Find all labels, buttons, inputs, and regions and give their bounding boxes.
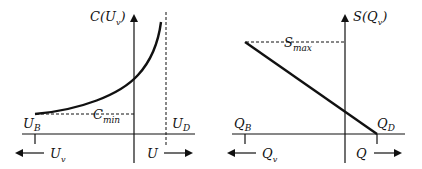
diagram-canvas: C(Uv) Cmin UB UD Uv U S(Qv) Smax QB [0,0,422,169]
qd-label: QD [377,116,395,133]
qv-direction-label: Qv [262,146,278,164]
right-panel-supply-line: S(Qv) Smax QB QD Qv Q [229,9,405,164]
smax-label: Smax [284,35,312,53]
uv-direction-label: Uv [50,146,66,164]
cmin-label: Cmin [93,107,120,125]
q-direction-label: Q [356,146,367,161]
left-y-axis-label: C(Uv) [90,9,126,27]
ub-label: UB [23,116,41,133]
qb-label: QB [234,116,252,133]
supply-line [245,42,377,134]
ud-label: UD [172,116,190,133]
u-direction-label: U [147,146,159,161]
cost-curve [35,22,161,114]
left-panel-cost-curve: C(Uv) Cmin UB UD Uv U [17,9,195,164]
right-y-axis-label: S(Qv) [353,9,387,27]
